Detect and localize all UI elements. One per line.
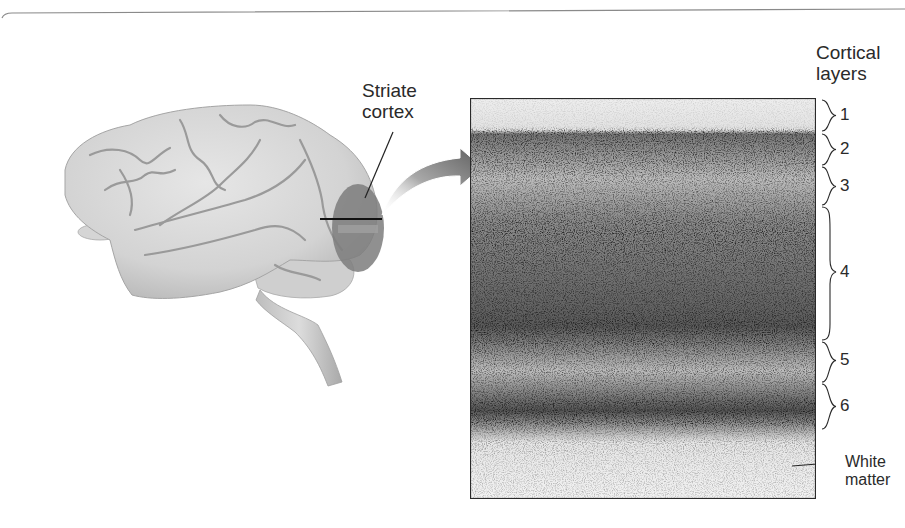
layer-label-5: 5: [840, 350, 849, 370]
striate-cortex-label: Striate cortex: [362, 80, 417, 123]
white-matter-label: White matter: [845, 453, 890, 490]
brace-layer-2: [822, 134, 836, 165]
layer-label-4: 4: [840, 262, 849, 282]
brace-layer-6: [822, 384, 836, 429]
white-matter-line1: White: [845, 453, 890, 471]
layer-label-2: 2: [840, 139, 849, 159]
layers-title-line2: layers: [816, 63, 880, 84]
layer-braces: [818, 90, 858, 440]
brain-illustration: [60, 60, 400, 400]
brainstem: [256, 290, 342, 386]
layers-title-line1: Cortical: [816, 42, 880, 63]
cortical-layers-title: Cortical layers: [816, 42, 880, 85]
layer-label-1: 1: [840, 105, 849, 125]
brace-layer-4: [822, 207, 836, 340]
brace-layer-3: [822, 167, 836, 205]
histology-section: [470, 98, 816, 499]
brace-layer-1: [822, 100, 836, 131]
layer-label-6: 6: [840, 396, 849, 416]
brace-layer-5: [822, 342, 836, 382]
white-matter-line2: matter: [845, 471, 890, 489]
striate-label-line2: cortex: [362, 101, 417, 122]
striate-label-line1: Striate: [362, 80, 417, 101]
layer-label-3: 3: [840, 176, 849, 196]
